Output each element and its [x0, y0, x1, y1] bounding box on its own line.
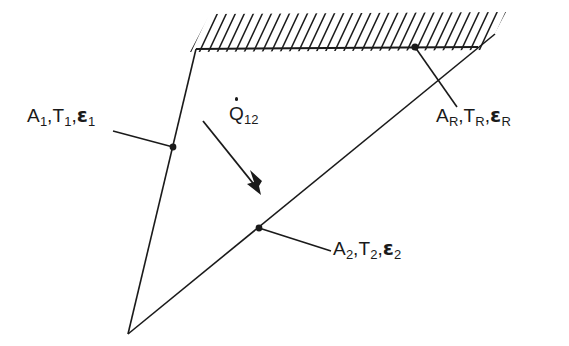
surface1-label: A1,T1,ε1 [27, 105, 95, 128]
surface2-area-symbol: A [333, 238, 346, 259]
surfaceR-emissivity-subscript: R [501, 114, 510, 129]
surfaceR-label: AR,TR,εR [436, 105, 511, 128]
surface2-label: A2,T2,ε2 [333, 238, 401, 261]
heat-flow-symbol-wrap: Q [229, 104, 244, 123]
surface1-emissivity-subscript: 1 [88, 114, 95, 129]
heat-flow-arrow [203, 121, 262, 195]
surface1-leader-line [113, 131, 173, 147]
diagram-canvas [0, 0, 569, 346]
radiation-enclosure-figure: A1,T1,ε1 AR,TR,εR A2,T2,ε2 Q12 [0, 0, 569, 346]
surface1-temp-symbol: T [52, 105, 64, 126]
surface1-area-symbol: A [27, 105, 40, 126]
surface1-line [128, 49, 196, 334]
surfaceR-emissivity-symbol: ε [490, 103, 501, 127]
heat-flow-symbol: Q [229, 103, 244, 124]
surface2-temp-symbol: T [358, 238, 370, 259]
heat-flow-overdot-icon [235, 97, 239, 101]
surface1-marker [170, 144, 177, 151]
surfaceR-marker [411, 43, 418, 50]
surface2-marker [256, 225, 263, 232]
heat-flow-subscript: 12 [244, 112, 258, 127]
surfaceR-temp-symbol: T [464, 105, 476, 126]
surface2-leader-line [259, 228, 331, 251]
surface1-emissivity-symbol: ε [77, 103, 88, 127]
surfaceR-area-symbol: A [436, 105, 449, 126]
surfaceR-area-subscript: R [449, 114, 458, 129]
surface2-emissivity-subscript: 2 [394, 247, 401, 262]
surfaceR-leader-line [415, 47, 457, 107]
heat-flow-label: Q12 [229, 104, 258, 126]
surfaceR-temp-subscript: R [475, 114, 484, 129]
surface2-emissivity-symbol: ε [383, 236, 394, 260]
surface2-line [128, 34, 495, 334]
